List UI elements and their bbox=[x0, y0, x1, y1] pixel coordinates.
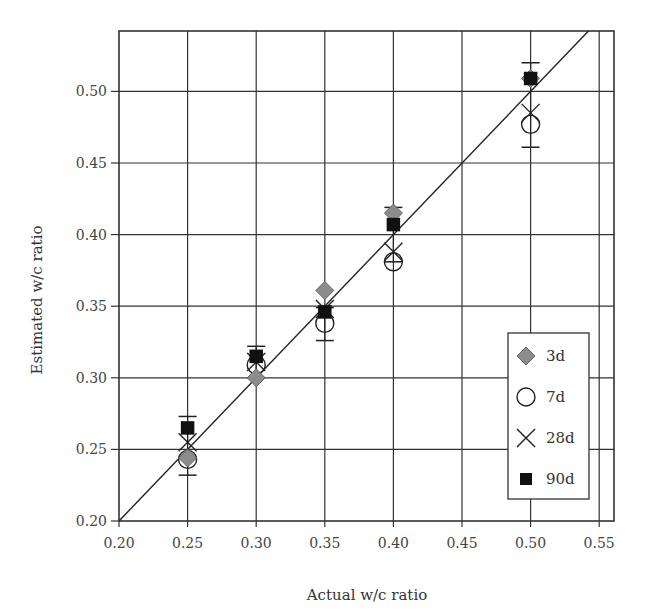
legend: 3d7d28d90d bbox=[508, 333, 589, 499]
legend-label: 28d bbox=[546, 429, 575, 447]
x-axis-ticks: 0.200.250.300.350.400.450.500.55 bbox=[103, 521, 614, 551]
square-marker-icon bbox=[387, 218, 401, 232]
y-tick-label: 0.40 bbox=[76, 227, 107, 243]
legend-label: 7d bbox=[546, 388, 566, 406]
y-tick-label: 0.30 bbox=[76, 370, 107, 386]
x-tick-label: 0.45 bbox=[446, 535, 477, 551]
square-marker-icon bbox=[181, 421, 195, 435]
y-tick-label: 0.25 bbox=[76, 441, 107, 457]
y-axis-ticks: 0.200.250.300.350.400.450.50 bbox=[76, 83, 119, 529]
x-tick-label: 0.20 bbox=[103, 535, 134, 551]
square-marker-icon bbox=[520, 473, 532, 485]
scatter-chart: 0.200.250.300.350.400.450.500.55 0.200.2… bbox=[0, 0, 655, 612]
y-tick-label: 0.20 bbox=[76, 513, 107, 529]
y-tick-label: 0.35 bbox=[76, 298, 107, 314]
data-points bbox=[179, 70, 540, 469]
legend-label: 3d bbox=[546, 347, 566, 365]
y-axis-title: Estimated w/c ratio bbox=[28, 226, 46, 375]
x-tick-label: 0.35 bbox=[309, 535, 340, 551]
x-axis-title: Actual w/c ratio bbox=[306, 586, 427, 604]
y-tick-label: 0.45 bbox=[76, 155, 107, 171]
x-tick-label: 0.40 bbox=[378, 535, 409, 551]
x-tick-label: 0.50 bbox=[515, 535, 546, 551]
x-tick-label: 0.55 bbox=[584, 535, 615, 551]
y-tick-label: 0.50 bbox=[76, 83, 107, 99]
square-marker-icon bbox=[249, 350, 263, 364]
error-bars bbox=[179, 63, 540, 475]
square-marker-icon bbox=[524, 72, 538, 86]
diamond-marker-icon bbox=[316, 281, 334, 299]
x-tick-label: 0.25 bbox=[172, 535, 203, 551]
diamond-marker-icon bbox=[179, 449, 197, 467]
x-tick-label: 0.30 bbox=[241, 535, 272, 551]
square-marker-icon bbox=[318, 305, 332, 319]
legend-label: 90d bbox=[546, 470, 575, 488]
